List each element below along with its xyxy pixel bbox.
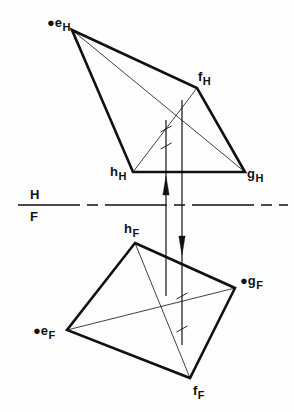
vertex-label-e-h: ●eH	[47, 14, 71, 33]
label-base: e	[55, 15, 62, 30]
vertex-label-g-h: gH	[247, 165, 263, 184]
label-subscript: H	[63, 21, 71, 33]
label-subscript: F	[132, 227, 139, 239]
fold-label-f: F	[30, 210, 38, 223]
projection-drawing	[0, 0, 294, 412]
vertex-point-marker: ●	[47, 15, 55, 30]
projector-lines	[163, 100, 185, 345]
vertex-label-h-f: hF	[124, 220, 139, 239]
label-base: e	[41, 323, 48, 338]
label-base: h	[124, 221, 132, 236]
vertex-label-f-h: fH	[198, 68, 211, 87]
label-subscript: F	[256, 279, 263, 291]
label-base: h	[110, 164, 118, 179]
label-base: f	[193, 383, 197, 398]
front-view-outline	[67, 243, 235, 378]
vertex-point-marker: ●	[33, 323, 41, 338]
figure-canvas: H F ●eHfHgHhHhF●gFfF●eF	[0, 0, 294, 412]
vertex-label-h-h: hH	[110, 163, 126, 182]
vertex-point-marker: ●	[240, 273, 248, 288]
vertex-label-f-f: fF	[193, 382, 205, 401]
label-base: g	[247, 166, 255, 181]
label-subscript: F	[198, 389, 205, 401]
label-base: f	[198, 69, 202, 84]
label-subscript: H	[255, 172, 263, 184]
label-subscript: H	[203, 75, 211, 87]
vertex-label-e-f: ●eF	[33, 322, 55, 341]
label-subscript: F	[49, 329, 56, 341]
label-base: g	[248, 273, 256, 288]
top-view-diagonals	[72, 30, 245, 172]
vertex-label-g-f: ●gF	[240, 272, 263, 291]
front-view-diagonals	[67, 243, 235, 378]
label-subscript: H	[118, 170, 126, 182]
fold-label-h: H	[30, 188, 39, 201]
